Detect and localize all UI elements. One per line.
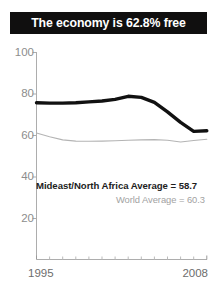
data-line-mideast-north-africa <box>37 96 207 131</box>
data-line-world <box>37 133 207 142</box>
chart-annotations: Mideast/North Africa Average = 58.7 Worl… <box>36 180 210 206</box>
y-axis-labels: 100 80 60 40 20 <box>5 38 34 238</box>
x-axis-ticks <box>37 256 207 260</box>
chart-title-banner: The economy is 62.8% free <box>10 12 207 34</box>
page-title: The economy is 62.8% free <box>31 17 186 29</box>
y-axis-label-100: 100 <box>6 47 34 59</box>
x-axis-label-end: 2008 <box>182 268 208 280</box>
y-axis-label-40: 40 <box>6 171 34 183</box>
x-axis-labels: 1995 2008 <box>0 268 214 286</box>
annotation-world-average: World Average = 60.3 <box>36 194 210 206</box>
x-axis-label-start: 1995 <box>28 268 54 280</box>
chart-figure: The economy is 62.8% free <box>0 0 214 301</box>
y-axis-label-20: 20 <box>6 213 34 225</box>
y-axis-label-60: 60 <box>6 130 34 142</box>
annotation-region-average: Mideast/North Africa Average = 58.7 <box>36 180 210 192</box>
y-axis-label-80: 80 <box>6 88 34 100</box>
